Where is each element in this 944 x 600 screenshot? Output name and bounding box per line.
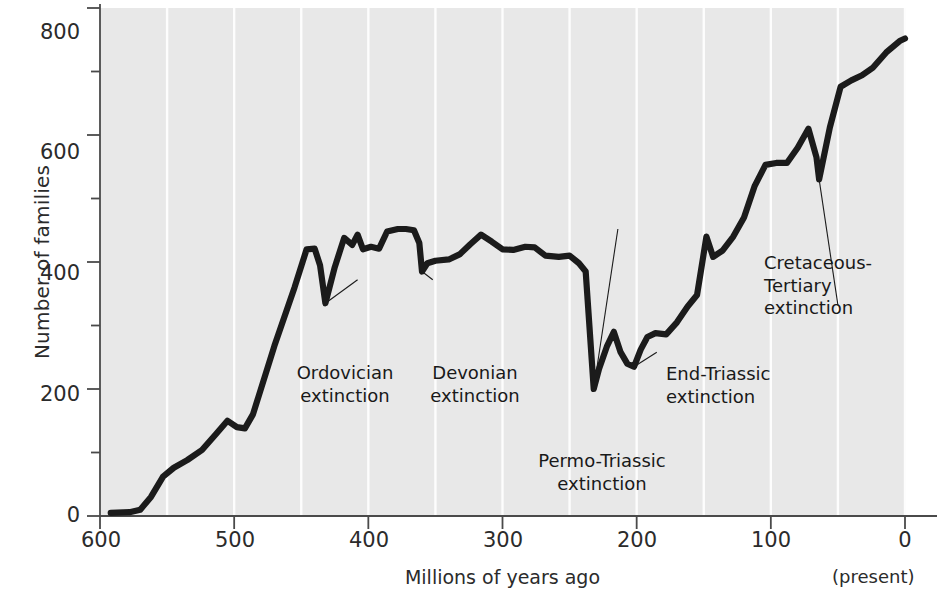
y-tick-800: 800 xyxy=(18,20,80,44)
annotation-permo-triassic-extinction: Permo-Triassic extinction xyxy=(524,450,680,495)
x-tick-400: 400 xyxy=(334,528,404,552)
x-axis-title: Millions of years ago xyxy=(100,566,905,588)
x-tick-600: 600 xyxy=(66,528,136,552)
x-tick-300: 300 xyxy=(468,528,538,552)
y-axis-title: Number of families xyxy=(30,132,54,392)
x-tick-500: 500 xyxy=(200,528,270,552)
annotation-ordovician-extinction: Ordovician extinction xyxy=(284,362,406,407)
annotation-devonian-extinction: Devonian extinction xyxy=(420,362,530,407)
x-tick-200: 200 xyxy=(602,528,672,552)
annotation-end-triassic-extinction: End-Triassic extinction xyxy=(666,363,806,408)
annotation-cretaceous-tertiary-extinction: Cretaceous- Tertiary extinction xyxy=(764,252,914,320)
x-tick-0: 0 xyxy=(870,528,940,552)
x-tick-100: 100 xyxy=(736,528,806,552)
x-axis-present-note: (present) xyxy=(832,566,914,587)
y-tick-0: 0 xyxy=(18,503,80,527)
chart-figure: 800 600 400 200 0 600 500 400 300 200 10… xyxy=(0,0,944,600)
